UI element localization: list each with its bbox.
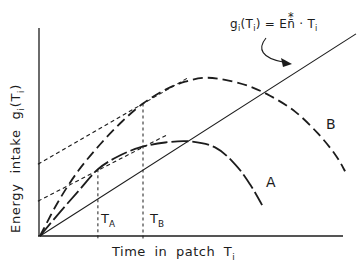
equation-part: g	[230, 17, 238, 31]
n-bar-star: n̄*	[287, 18, 295, 31]
equation-label: gi(Ti) = En̄* · Ti	[230, 18, 318, 33]
y-axis-label-text: Energy intake g	[8, 110, 23, 233]
figure-canvas: gi(Ti) = En̄* · Ti A B TA TB Time in pat…	[0, 0, 363, 270]
y-axis-label-subscript: i	[16, 90, 26, 93]
curve-a-label: A	[266, 175, 276, 190]
equation-subscript: i	[315, 23, 318, 33]
y-axis-label-text: (T	[8, 93, 23, 107]
equation-arrow	[262, 38, 283, 62]
t-a-main: T	[101, 211, 109, 226]
x-axis-label: Time in patch Ti	[112, 245, 235, 262]
t-a-subscript: A	[109, 219, 115, 229]
t-a-label: TA	[101, 212, 115, 229]
equation-part: ) = E	[256, 17, 287, 31]
equation-arrowhead-icon	[281, 58, 292, 67]
plot-area	[0, 0, 363, 270]
t-b-subscript: B	[158, 219, 164, 229]
y-axis-label-text: )	[8, 84, 23, 90]
y-axis-label: Energy intake gi(Ti)	[9, 84, 26, 233]
t-b-label: TB	[150, 212, 164, 229]
t-b-main: T	[150, 211, 158, 226]
series-average-rate-line	[40, 34, 356, 236]
x-axis-label-subscript: i	[232, 252, 235, 262]
x-axis-label-text: Time in patch T	[112, 244, 232, 259]
series-tangent-at-TA	[38, 134, 168, 201]
y-axis-label-subscript: i	[16, 107, 26, 110]
equation-part: · T	[295, 17, 315, 31]
series-gain-curve-B	[40, 78, 345, 236]
asterisk-superscript: *	[288, 11, 294, 24]
curve-b-label: B	[326, 117, 336, 132]
equation-part: (T	[241, 17, 254, 31]
series-tangent-at-TB	[38, 78, 188, 165]
